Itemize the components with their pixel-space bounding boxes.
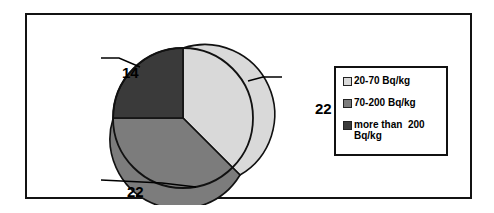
legend-item-20-70[interactable]: 20-70 Bq/kg [343,75,441,86]
legend-label-more-than-200: more than 200 Bq/kg [354,119,425,141]
legend-swatch-icon-more-than-200 [343,121,352,130]
chart-frame: 22 22 14 20-70 Bq/kg 70-200 Bq/kg more t… [25,13,472,199]
chart-root: 22 22 14 20-70 Bq/kg 70-200 Bq/kg more t… [0,0,494,213]
legend-label-20-70: 20-70 Bq/kg [354,75,410,86]
pie-chart: 22 22 14 [67,25,307,205]
legend-label-70-200: 70-200 Bq/kg [354,97,416,108]
legend-swatch-icon-70-200 [343,99,352,108]
legend-item-70-200[interactable]: 70-200 Bq/kg [343,97,441,108]
pie-svg [67,25,307,205]
pie-slice-more-than-200[interactable] [113,48,183,118]
legend-swatch-icon-20-70 [343,77,352,86]
pie-label-70-200: 22 [127,184,144,199]
pie-label-20-70: 22 [315,101,332,116]
legend-item-more-than-200[interactable]: more than 200 Bq/kg [343,119,441,141]
pie-label-more-than-200: 14 [122,65,139,80]
chart-legend: 20-70 Bq/kg 70-200 Bq/kg more than 200 B… [334,66,448,156]
